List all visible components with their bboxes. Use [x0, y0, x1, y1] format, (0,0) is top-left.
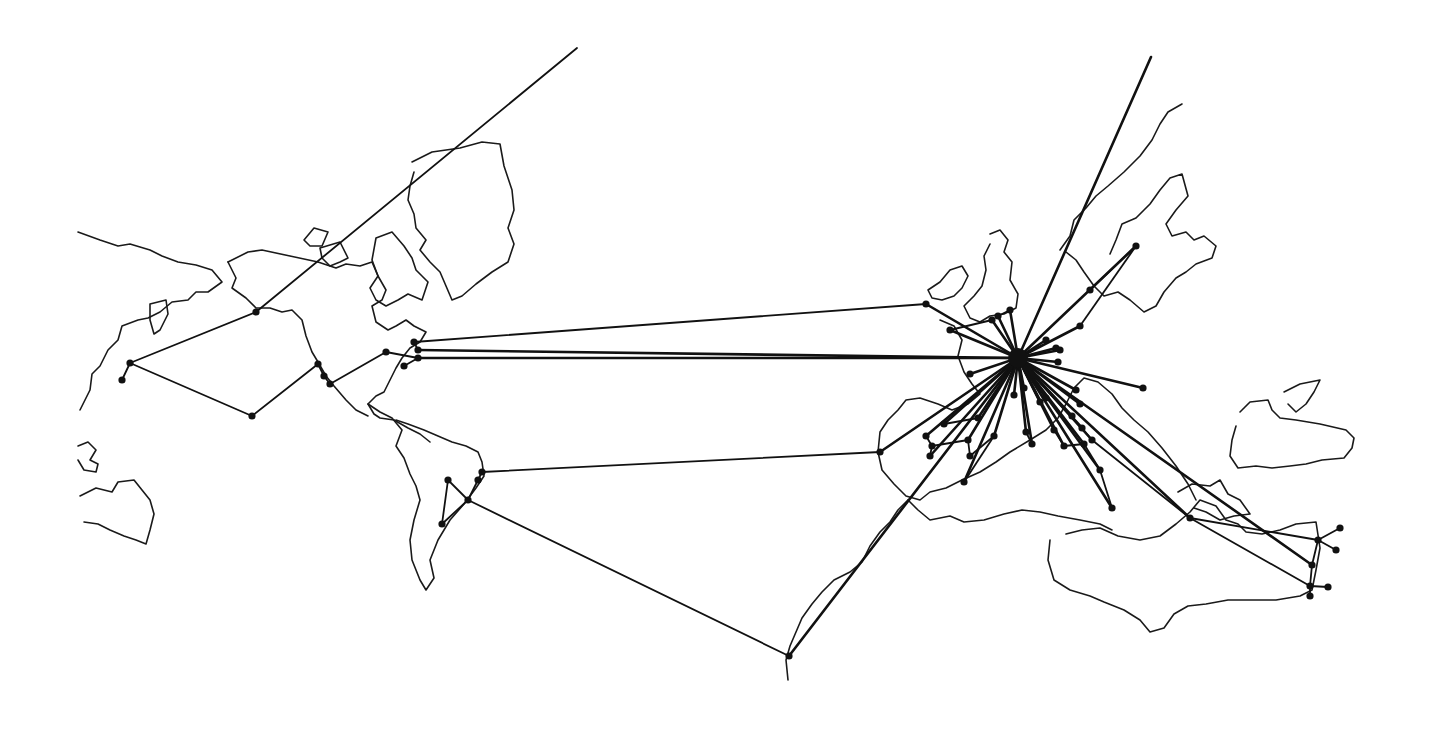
node-italy-7: [1108, 504, 1115, 511]
node-me-4: [1308, 561, 1315, 568]
node-alaska-1: [126, 359, 133, 366]
coastline-pacific-island-1: [78, 442, 98, 472]
node-ireland: [922, 300, 929, 307]
coastline-arctic-island-2: [320, 242, 348, 266]
route-mid-us-west-coast-3: [330, 352, 386, 384]
node-italy-6: [1096, 466, 1103, 473]
node-iberia-1: [922, 432, 929, 439]
node-eu-k: [1020, 384, 1027, 391]
route-ireland-east-us-1: [414, 304, 926, 342]
node-east-1: [1139, 384, 1146, 391]
node-eu-p: [1068, 412, 1075, 419]
node-brazil-2: [474, 476, 481, 483]
node-scand-2: [1086, 286, 1093, 293]
route-mid-pacific-alaska-1: [130, 363, 252, 416]
coastline-north-america-coast-west: [228, 262, 368, 416]
coastline-pacific-island-2: [80, 480, 154, 544]
node-iberia-west: [876, 448, 883, 455]
coastline-alaska-island: [150, 300, 168, 334]
node-iberia-2: [926, 452, 933, 459]
route-scand-1-scand-2: [1090, 246, 1136, 290]
route-hub-me-4: [1018, 358, 1312, 565]
node-balkan-2: [1088, 436, 1095, 443]
coastline-baffin: [370, 232, 428, 306]
node-east-us-2: [414, 346, 421, 353]
node-iberia-6: [964, 436, 971, 443]
route-brazil-hub-africa-south: [468, 500, 789, 656]
node-iberia-3: [928, 442, 935, 449]
node-brazil-1: [478, 468, 485, 475]
node-brazil-hub: [464, 496, 471, 503]
node-mid-us: [382, 348, 389, 355]
node-eu-g: [1052, 344, 1059, 351]
node-italy-5: [1080, 440, 1087, 447]
node-eu-m: [1042, 394, 1049, 401]
node-iberia-4: [940, 420, 947, 427]
route-me-3-me-1: [1318, 528, 1340, 540]
node-east-us-4: [400, 362, 407, 369]
node-iberia-8: [974, 414, 981, 421]
node-brazil-4: [438, 520, 445, 527]
coastline-caspian-inner: [1284, 380, 1320, 412]
coastline-arctic-island-1: [304, 228, 328, 246]
coastline-british-isles-ireland: [928, 266, 968, 300]
node-italy-3: [1050, 426, 1057, 433]
node-me-7: [1306, 582, 1313, 589]
node-mid-pacific: [248, 412, 255, 419]
hub-node: [1008, 348, 1028, 368]
node-eu-n: [1072, 386, 1079, 393]
node-iberia-9: [990, 432, 997, 439]
node-eu-o: [1076, 400, 1083, 407]
coastline-greenland: [408, 142, 514, 300]
node-balkan-1: [1078, 424, 1085, 431]
node-eu-c: [946, 326, 953, 333]
node-iberia-5: [960, 478, 967, 485]
route-nodes: [118, 242, 1343, 659]
node-west-coast-3: [326, 380, 333, 387]
node-east-us-3: [414, 354, 421, 361]
node-north-pacific: [252, 308, 259, 315]
route-west-coast-1-mid-pacific: [252, 364, 318, 416]
node-italy-2: [1028, 440, 1035, 447]
node-me-5: [1324, 583, 1331, 590]
coastlines: [78, 104, 1354, 680]
node-east-us-1: [410, 338, 417, 345]
node-greece: [1186, 514, 1193, 521]
routes: [122, 48, 1340, 656]
node-eu-b: [994, 312, 1001, 319]
route-hub-far-north: [1018, 57, 1151, 358]
route-brazil-hub-brazil-3: [448, 480, 468, 500]
coastline-north-america-main: [228, 250, 430, 442]
network-map: [0, 0, 1433, 729]
node-scand-1: [1132, 242, 1139, 249]
node-scand-3: [1076, 322, 1083, 329]
route-italy-6-italy-7: [1100, 470, 1112, 508]
coastline-caspian-region: [1230, 400, 1354, 468]
node-eu-j: [1010, 391, 1017, 398]
node-eu-i: [966, 370, 973, 377]
node-eu-a: [988, 316, 995, 323]
node-eu-h: [1042, 336, 1049, 343]
node-me-3: [1314, 536, 1321, 543]
node-africa-south: [785, 652, 792, 659]
route-brazil-hub-brazil-4: [442, 500, 468, 524]
node-brazil-3: [444, 476, 451, 483]
route-balkan-2-greece: [1092, 440, 1190, 518]
node-me-2: [1332, 546, 1339, 553]
route-north-pacific-far-north-pacific: [256, 48, 577, 312]
route-scand-1-scand-3: [1080, 246, 1136, 326]
node-me-6: [1306, 592, 1313, 599]
node-italy-4: [1060, 442, 1067, 449]
node-eu-l: [1036, 398, 1043, 405]
coastline-middle-east: [1048, 500, 1320, 632]
route-brazil-3-brazil-4: [442, 480, 448, 524]
route-iberia-west-brazil-1: [482, 452, 880, 472]
node-iberia-7: [966, 452, 973, 459]
node-alaska-2: [118, 376, 125, 383]
node-me-1: [1336, 524, 1343, 531]
node-eu-d: [1006, 306, 1013, 313]
node-italy-1: [1022, 428, 1029, 435]
node-west-coast-2: [320, 372, 327, 379]
coastline-africa-north: [908, 500, 1112, 530]
route-alaska-1-north-pacific: [130, 312, 256, 363]
